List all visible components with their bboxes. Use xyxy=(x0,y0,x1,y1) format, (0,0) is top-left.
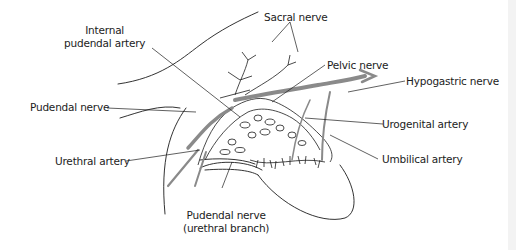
label-pelvic-nerve: Pelvic nerve xyxy=(327,59,388,72)
label-line-1: Pudendal nerve xyxy=(183,209,269,222)
page-edge-shadow xyxy=(508,0,516,250)
label-line-1: Internal xyxy=(64,24,145,37)
label-sacral-nerve: Sacral nerve xyxy=(264,11,328,24)
label-pudendal-nerve: Pudendal nerve xyxy=(30,101,109,114)
label-urethral-artery: Urethral artery xyxy=(55,155,130,168)
label-pudendal-nerve-urethral-branch: Pudendal nerve (urethral branch) xyxy=(183,209,269,235)
label-line-2: pudendal artery xyxy=(64,37,145,50)
label-umbilical-artery: Umbilical artery xyxy=(382,153,462,166)
label-urogenital-artery: Urogenital artery xyxy=(382,118,468,131)
label-hypogastric-nerve: Hypogastric nerve xyxy=(406,75,499,88)
diagram-canvas: Internal pudendal artery Sacral nerve Pe… xyxy=(0,0,516,250)
label-internal-pudendal-artery: Internal pudendal artery xyxy=(64,24,145,50)
label-line-2: (urethral branch) xyxy=(183,222,269,235)
